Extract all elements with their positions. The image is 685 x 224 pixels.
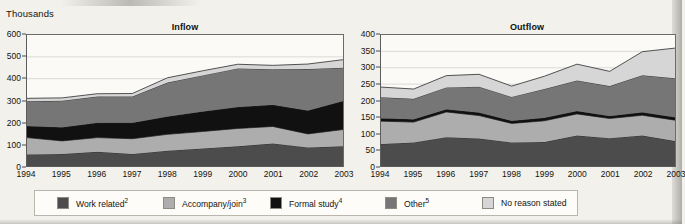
legend-footnote-marker-formal_study: 4 bbox=[339, 197, 343, 204]
x-tick-label-outflow-2002: 2002 bbox=[634, 169, 653, 179]
legend-swatch-work_related bbox=[57, 197, 69, 209]
x-axis-inflow: 1994199519961997199819992000200120022003 bbox=[0, 167, 344, 185]
legend-label-accompany_join: Accompany/join3 bbox=[182, 197, 246, 209]
y-tick-label-outflow-100: 100 bbox=[361, 129, 375, 139]
x-tick-label-outflow-1997: 1997 bbox=[469, 169, 488, 179]
chart-title-inflow: Inflow bbox=[0, 22, 344, 32]
legend-footnote-marker-accompany_join: 3 bbox=[243, 197, 247, 204]
x-tick-label-inflow-2003: 2003 bbox=[335, 169, 354, 179]
x-tick-label-inflow-2002: 2002 bbox=[299, 169, 318, 179]
x-tick-label-outflow-1999: 1999 bbox=[535, 169, 554, 179]
x-tick-label-inflow-2000: 2000 bbox=[229, 169, 248, 179]
scan-artifact-bottom bbox=[0, 219, 682, 224]
plot-row-outflow: 050100150200250300350400 bbox=[358, 34, 676, 167]
x-tick-label-outflow-1996: 1996 bbox=[436, 169, 455, 179]
legend-item-formal_study[interactable]: Formal study4 bbox=[270, 197, 342, 209]
plot-area-outflow bbox=[380, 34, 676, 167]
x-tick-label-outflow-1994: 1994 bbox=[371, 169, 390, 179]
y-tick-label-outflow-150: 150 bbox=[361, 112, 375, 122]
legend-item-no_reason_stated[interactable]: No reason stated bbox=[482, 197, 566, 209]
legend-swatch-formal_study bbox=[270, 197, 282, 209]
y-axis-outflow: 050100150200250300350400 bbox=[358, 34, 380, 167]
stacked-area-svg-inflow bbox=[27, 35, 343, 166]
legend-swatch-accompany_join bbox=[163, 197, 175, 209]
x-tick-label-outflow-2000: 2000 bbox=[568, 169, 587, 179]
legend-swatch-other bbox=[385, 197, 397, 209]
x-tick-label-outflow-1995: 1995 bbox=[403, 169, 422, 179]
x-tick-label-inflow-1999: 1999 bbox=[193, 169, 212, 179]
legend-label-no_reason_stated: No reason stated bbox=[501, 198, 566, 208]
legend-item-work_related[interactable]: Work related2 bbox=[57, 197, 128, 209]
units-label: Thousands bbox=[6, 8, 54, 19]
x-tick-label-inflow-1997: 1997 bbox=[123, 169, 142, 179]
y-tick-label-inflow-200: 200 bbox=[7, 118, 21, 128]
legend-item-other[interactable]: Other5 bbox=[385, 197, 429, 209]
y-tick-label-outflow-400: 400 bbox=[361, 29, 375, 39]
legend-label-other: Other5 bbox=[404, 197, 429, 209]
plot-area-inflow bbox=[26, 34, 344, 167]
x-tick-label-inflow-2001: 2001 bbox=[264, 169, 283, 179]
x-tick-label-outflow-1998: 1998 bbox=[502, 169, 521, 179]
legend-footnote-marker-work_related: 2 bbox=[125, 197, 129, 204]
legend-label-work_related: Work related2 bbox=[76, 197, 128, 209]
chart-panel-outflow: Outflow 050100150200250300350400 1994199… bbox=[358, 22, 676, 185]
y-tick-label-outflow-350: 350 bbox=[361, 46, 375, 56]
x-tick-label-inflow-1996: 1996 bbox=[87, 169, 106, 179]
y-axis-inflow: 0100200300400500600 bbox=[0, 34, 26, 167]
scan-artifact-top bbox=[60, 0, 260, 6]
chart-panel-inflow: Inflow 0100200300400500600 1994199519961… bbox=[0, 22, 344, 185]
plot-row-inflow: 0100200300400500600 bbox=[0, 34, 344, 167]
legend-label-formal_study: Formal study4 bbox=[289, 197, 342, 209]
x-tick-label-inflow-1994: 1994 bbox=[17, 169, 36, 179]
x-tick-label-inflow-1995: 1995 bbox=[52, 169, 71, 179]
legend-footnote-marker-other: 5 bbox=[426, 197, 430, 204]
chart-title-outflow: Outflow bbox=[358, 22, 676, 32]
y-tick-label-outflow-50: 50 bbox=[366, 145, 375, 155]
y-tick-label-inflow-500: 500 bbox=[7, 51, 21, 61]
y-tick-label-outflow-200: 200 bbox=[361, 96, 375, 106]
x-tick-label-inflow-1998: 1998 bbox=[158, 169, 177, 179]
y-tick-label-inflow-600: 600 bbox=[7, 29, 21, 39]
y-tick-label-outflow-300: 300 bbox=[361, 62, 375, 72]
legend-swatch-no_reason_stated bbox=[482, 197, 494, 209]
y-tick-label-inflow-300: 300 bbox=[7, 96, 21, 106]
x-tick-label-outflow-2003: 2003 bbox=[667, 169, 685, 179]
chart-legend: Work related2Accompany/join3Formal study… bbox=[34, 190, 578, 216]
y-tick-label-inflow-100: 100 bbox=[7, 140, 21, 150]
x-axis-outflow: 1994199519961997199819992000200120022003 bbox=[358, 167, 676, 185]
x-tick-label-outflow-2001: 2001 bbox=[601, 169, 620, 179]
y-tick-label-inflow-400: 400 bbox=[7, 73, 21, 83]
stacked-area-svg-outflow bbox=[381, 35, 675, 166]
legend-item-accompany_join[interactable]: Accompany/join3 bbox=[163, 197, 246, 209]
y-tick-label-outflow-250: 250 bbox=[361, 79, 375, 89]
